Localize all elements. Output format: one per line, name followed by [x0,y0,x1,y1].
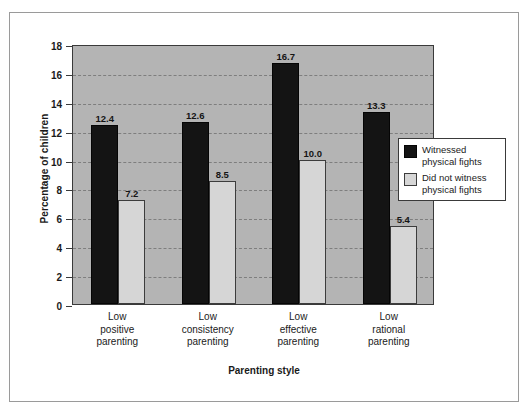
bar: 8.5 [209,181,236,304]
y-axis-tick-mark [66,46,72,47]
bar: 5.4 [390,226,417,304]
legend-swatch-dark [404,145,417,158]
y-axis-tick-label: 2 [56,272,62,283]
y-axis-tick-label: 8 [56,185,62,196]
y-axis-tick-label: 12 [51,127,62,138]
y-axis-tick-mark [66,248,72,249]
y-axis-tick-mark [66,162,72,163]
y-axis-tick-mark [66,190,72,191]
bar-value-label: 5.4 [397,214,410,225]
bar: 12.4 [91,125,118,304]
y-axis-tick-mark [66,133,72,134]
y-axis-tick-label: 0 [56,301,62,312]
x-axis-category-label: Low effective parenting [253,311,344,349]
figure-frame: Percentage of children Parenting style 0… [9,12,519,402]
legend-item: Witnessed physical fights [404,144,499,167]
x-axis-category-label: Low rational parenting [344,311,435,349]
y-axis-tick-mark [66,104,72,105]
bar: 16.7 [272,63,299,304]
y-axis-tick-mark [66,219,72,220]
bar-value-label: 10.0 [304,148,323,159]
bar-value-label: 7.2 [125,188,138,199]
y-axis-tick-label: 10 [51,156,62,167]
bar-value-label: 12.6 [186,110,205,121]
y-axis-tick-mark [66,277,72,278]
legend-label: Did not witness physical fights [422,172,486,195]
x-axis-title: Parenting style [10,365,518,376]
bar: 10.0 [299,160,326,304]
y-axis-tick-label: 6 [56,214,62,225]
bar-value-label: 12.4 [96,113,115,124]
plot-area: 024681012141618 12.47.212.68.516.710.013… [72,45,434,305]
bar-value-label: 8.5 [216,169,229,180]
gridline [73,75,433,76]
y-axis-tick-mark [66,75,72,76]
y-axis-tick-mark [66,306,72,307]
legend-label: Witnessed physical fights [422,144,482,167]
y-axis-tick-label: 16 [51,69,62,80]
bar: 12.6 [182,122,209,304]
x-axis-category-label: Low positive parenting [72,311,163,349]
bar-value-label: 13.3 [367,100,386,111]
bar-value-label: 16.7 [277,51,296,62]
chart-legend: Witnessed physical fightsDid not witness… [398,138,506,201]
bar: 7.2 [118,200,145,304]
legend-swatch-light [404,173,417,186]
x-axis-category-label: Low consistency parenting [163,311,254,349]
bar: 13.3 [363,112,390,304]
legend-item: Did not witness physical fights [404,172,499,195]
y-axis-tick-label: 18 [51,41,62,52]
y-axis-tick-label: 14 [51,98,62,109]
y-axis-tick-label: 4 [56,243,62,254]
y-axis-title: Percentage of children [39,79,50,259]
